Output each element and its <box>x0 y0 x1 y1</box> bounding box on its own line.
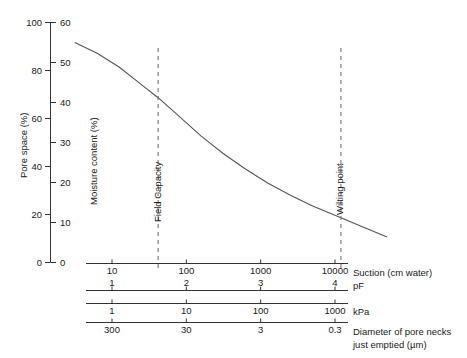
x-axis-suction-title: Suction (cm water) <box>353 267 432 279</box>
x-tick-suction-cm-water--0: 10 <box>86 266 138 276</box>
x-axis-diameter-title: Diameter of pore necks <box>353 326 451 338</box>
field-capacity-label: Field Capacity <box>152 162 164 222</box>
x-axis-pf-title: pF <box>353 280 364 292</box>
y-axis-secondary-title: Moisture content (%) <box>88 117 100 205</box>
x-tick-kpa-2: 100 <box>235 306 287 316</box>
x-tick-suction-cm-water--2: 1000 <box>235 266 287 276</box>
y-axis-primary-ticks <box>45 23 51 263</box>
x-tick-kpa-1: 10 <box>160 306 212 316</box>
y-tick-pore-20: 20 <box>22 210 42 220</box>
y-tick-pore-0: 0 <box>22 258 42 268</box>
y-axis-primary-title: Pore space (%) <box>18 113 30 178</box>
y-tick-moisture-30: 30 <box>60 138 71 148</box>
y-tick-moisture-10: 10 <box>60 218 71 228</box>
x-tick-pore-neck-diameter-0: 300 <box>86 325 138 335</box>
x-tick-kpa-0: 1 <box>86 306 138 316</box>
y-tick-pore-100: 100 <box>22 18 42 28</box>
wilting-point-label: Wilting point <box>334 163 346 215</box>
x-axis-kpa-title: kPa <box>353 306 369 318</box>
y-tick-moisture-0: 0 <box>60 258 65 268</box>
y-tick-moisture-40: 40 <box>60 98 71 108</box>
y-tick-pore-80: 80 <box>22 66 42 76</box>
x-tick-pf-0: 1 <box>86 278 138 288</box>
x-tick-suction-cm-water--1: 100 <box>160 266 212 276</box>
y-axis-secondary-ticks <box>51 23 57 263</box>
x-axis-diameter-title-line2: just emptied (µm) <box>353 339 427 351</box>
y-tick-moisture-50: 50 <box>60 58 71 68</box>
retention-curve-figure: 100 80 60 40 20 0 60 50 40 30 20 10 0 Po… <box>0 0 467 358</box>
y-tick-moisture-60: 60 <box>60 18 71 28</box>
x-tick-pf-1: 2 <box>160 278 212 288</box>
y-tick-moisture-20: 20 <box>60 178 71 188</box>
x-tick-pf-2: 3 <box>235 278 287 288</box>
x-tick-pore-neck-diameter-2: 3 <box>235 325 287 335</box>
x-tick-pore-neck-diameter-1: 30 <box>160 325 212 335</box>
